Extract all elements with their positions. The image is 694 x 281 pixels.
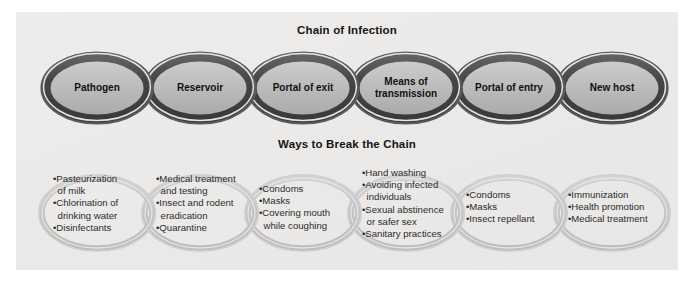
chain-link-label-pathogen: Pathogen xyxy=(47,82,147,94)
chain-link-label-reservoir: Reservoir xyxy=(150,82,250,94)
list-item: •Immunization xyxy=(568,189,672,201)
list-item: •Sexual abstinence or safer sex xyxy=(362,204,466,228)
break-chain-list-portal-of-exit: •Condoms •Masks •Covering mouth while co… xyxy=(259,183,359,232)
chain-of-infection-diagram: Chain of Infection Ways to Break the Cha… xyxy=(0,0,694,281)
break-chain-list-pathogen: •Pasteurization of milk •Chlorination of… xyxy=(53,173,149,234)
list-item: •Masks xyxy=(259,195,359,207)
break-chain-list-means-of-transmission: •Hand washing •Avoiding infected individ… xyxy=(362,167,466,240)
list-item: •Condoms xyxy=(259,183,359,195)
chain-link-label-new-host: New host xyxy=(562,82,662,94)
chain-of-infection-title: Chain of Infection xyxy=(0,24,694,36)
list-item: •Chlorination of drinking water xyxy=(53,197,149,221)
list-item: •Quarantine xyxy=(156,222,256,234)
list-item: •Hand washing xyxy=(362,167,466,179)
ways-to-break-the-chain-title: Ways to Break the Chain xyxy=(0,138,694,150)
list-item: •Insect repellant xyxy=(466,213,564,225)
chain-link-label-means-of-transmission: Means of transmission xyxy=(356,76,456,99)
list-item: •Insect and rodent eradication xyxy=(156,197,256,221)
list-item: •Covering mouth while coughing xyxy=(259,207,359,231)
list-item: •Disinfectants xyxy=(53,222,149,234)
chain-link-label-portal-of-exit: Portal of exit xyxy=(253,82,353,94)
break-chain-list-reservoir: •Medical treatment and testing •Insect a… xyxy=(156,173,256,234)
chain-link-label-portal-of-entry: Portal of entry xyxy=(459,82,559,94)
break-chain-list-portal-of-entry: •Condoms •Masks •Insect repellant xyxy=(466,189,564,226)
list-item: •Pasteurization of milk xyxy=(53,173,149,197)
list-item: •Avoiding infected individuals xyxy=(362,179,466,203)
list-item: •Health promotion xyxy=(568,201,672,213)
list-item: •Medical treatment and testing xyxy=(156,173,256,197)
list-item: •Condoms xyxy=(466,189,564,201)
break-chain-list-new-host: •Immunization •Health promotion •Medical… xyxy=(568,189,672,226)
list-item: •Medical treatment xyxy=(568,213,672,225)
list-item: •Masks xyxy=(466,201,564,213)
list-item: •Sanitary practices xyxy=(362,228,466,240)
